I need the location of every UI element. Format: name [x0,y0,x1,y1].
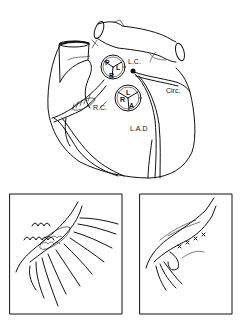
aortic-arch [98,22,176,42]
heart-diagram: P L R L R A L.C. Circ. R.C. L.A.D [0,0,245,331]
label-right-coronary: R.C. [93,104,107,111]
label-circumflex: Circ. [166,87,180,94]
right-atrium [60,60,91,108]
suture-line [178,233,205,248]
aortic-cusp-l: L [126,89,131,96]
panel-frame-left [10,194,122,314]
sutures-top [24,223,54,240]
repaired-vessel [146,198,214,268]
pulmonary-cusp-p: P [105,59,110,66]
heart-outline [48,45,195,178]
vessel-stump-top [92,20,106,40]
aortic-cusp-a: A [129,102,134,109]
label-left-coronary: L.C. [128,58,141,65]
pulmonary-cusp-r: R [109,72,114,79]
detail-panel-left [10,194,122,314]
vessel-stump-right [174,42,186,61]
detail-panel-right [140,194,232,314]
panel-frame-right [140,194,232,314]
drainage-branches [29,218,118,306]
label-lad: L.A.D [130,125,148,132]
pulmonary-cusp-l: L [116,64,121,71]
aortic-cusp-r: R [120,96,125,103]
